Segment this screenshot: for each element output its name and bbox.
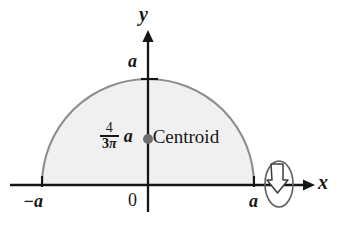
x-axis-label: x: [318, 172, 328, 192]
tick-label-x-negative-a: −a: [23, 192, 43, 210]
tick-label-y-a: a: [128, 52, 137, 70]
fraction-denominator-number: 3: [102, 136, 109, 151]
pi-symbol: π: [109, 136, 117, 151]
y-axis-label: y: [139, 4, 148, 24]
figure-canvas: [0, 0, 353, 227]
centroid-coefficient-fraction: 4 3π: [100, 121, 119, 151]
tick-label-x-positive-a: a: [249, 192, 258, 210]
y-axis-arrowhead: [142, 30, 153, 42]
fraction-denominator: 3π: [100, 137, 119, 151]
x-axis-arrowhead: [303, 179, 315, 190]
centroid-annotation: 4 3π a Centroid: [100, 121, 219, 151]
semicircle-centroid-figure: y x a −a 0 a 4 3π a Centroid: [0, 0, 353, 227]
centroid-variable: a: [124, 127, 133, 145]
fraction-numerator: 4: [104, 121, 115, 135]
centroid-label: Centroid: [153, 127, 220, 146]
origin-label: 0: [128, 191, 137, 209]
